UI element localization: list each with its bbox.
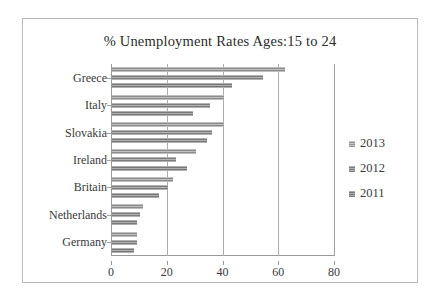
value-label-60: 60 xyxy=(272,265,284,280)
bar xyxy=(112,149,196,154)
category-tick xyxy=(107,160,111,161)
value-label-20: 20 xyxy=(161,265,173,280)
bar xyxy=(112,204,143,209)
category-label-germany: Germany xyxy=(62,236,107,248)
category-label-slovakia: Slovakia xyxy=(65,127,107,139)
legend-label: 2011 xyxy=(360,186,385,201)
bar xyxy=(112,240,137,245)
bar xyxy=(112,248,134,253)
category-tick xyxy=(107,105,111,106)
chart-title: % Unemployment Rates Ages:15 to 24 xyxy=(23,33,417,50)
category-label-italy: Italy xyxy=(85,99,107,111)
category-tick xyxy=(107,242,111,243)
bar xyxy=(112,122,224,127)
legend-swatch-icon xyxy=(349,141,355,147)
bar xyxy=(112,185,168,190)
legend-swatch-icon xyxy=(349,191,355,197)
bar-group xyxy=(112,122,334,143)
legend-item-2012: 2012 xyxy=(349,156,413,181)
category-label-greece: Greece xyxy=(73,72,107,84)
category-tick xyxy=(107,215,111,216)
bar xyxy=(112,220,137,225)
category-tick xyxy=(107,78,111,79)
chart-legend: 201320122011 xyxy=(349,131,413,206)
value-label-80: 80 xyxy=(328,265,340,280)
category-tick xyxy=(107,133,111,134)
bar xyxy=(112,67,285,72)
category-label-britain: Britain xyxy=(74,181,107,193)
legend-label: 2013 xyxy=(360,136,385,151)
bar xyxy=(112,103,210,108)
category-label-ireland: Ireland xyxy=(73,154,107,166)
bar xyxy=(112,177,173,182)
legend-label: 2012 xyxy=(360,161,385,176)
bar xyxy=(112,83,232,88)
chart-frame: % Unemployment Rates Ages:15 to 24 Greec… xyxy=(22,18,418,283)
bar xyxy=(112,138,207,143)
bar xyxy=(112,166,187,171)
category-label-netherlands: Netherlands xyxy=(49,209,107,221)
bar xyxy=(112,95,224,100)
category-axis-labels: GreeceItalySlovakiaIrelandBritainNetherl… xyxy=(23,64,107,256)
legend-item-2011: 2011 xyxy=(349,181,413,206)
bar xyxy=(112,111,193,116)
bar-group xyxy=(112,149,334,170)
value-label-0: 0 xyxy=(108,265,114,280)
bar-group xyxy=(112,232,334,253)
category-tick xyxy=(107,187,111,188)
bar-group xyxy=(112,95,334,116)
plot-area xyxy=(111,64,334,256)
bar-group xyxy=(112,67,334,88)
bar xyxy=(112,212,140,217)
bar-group xyxy=(112,177,334,198)
bar xyxy=(112,193,159,198)
bar xyxy=(112,232,137,237)
bar xyxy=(112,130,212,135)
gridline-80 xyxy=(334,64,335,256)
legend-item-2013: 2013 xyxy=(349,131,413,156)
value-axis-labels: 020406080 xyxy=(111,261,334,283)
bar-group xyxy=(112,204,334,225)
bar xyxy=(112,75,263,80)
legend-swatch-icon xyxy=(349,166,355,172)
value-label-40: 40 xyxy=(217,265,229,280)
bar xyxy=(112,157,176,162)
